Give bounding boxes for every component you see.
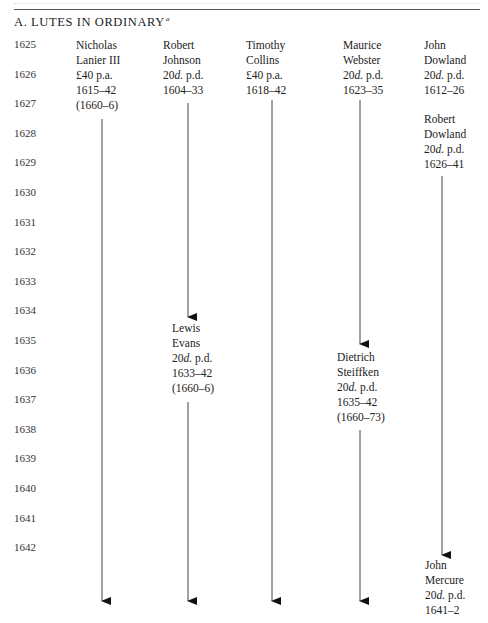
tenure-arrows (0, 0, 488, 623)
